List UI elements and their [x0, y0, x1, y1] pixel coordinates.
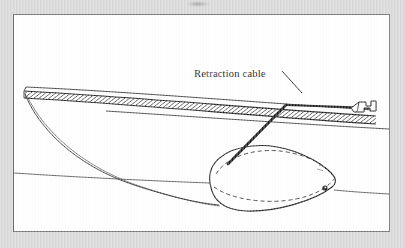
retraction-cable-label-group: Retraction cable [194, 68, 302, 93]
scan-smudge-artifact [186, 1, 210, 7]
retraction-cable-leader-line [282, 71, 302, 93]
technical-drawing: Retraction cable [14, 15, 389, 231]
wing-root-fitting [351, 101, 376, 112]
fuselage-tail-line [334, 190, 389, 194]
retraction-cable-label: Retraction cable [194, 68, 266, 79]
figure-page: Retraction cable [0, 0, 405, 248]
pod-hidden-line-upper [216, 151, 334, 177]
fuselage-underside-curve [14, 94, 220, 206]
pod-hidden-line-lower [214, 179, 334, 201]
gear-pod [210, 146, 336, 212]
wing-hatched-spar [14, 75, 389, 145]
figure-panel: Retraction cable [13, 14, 390, 232]
